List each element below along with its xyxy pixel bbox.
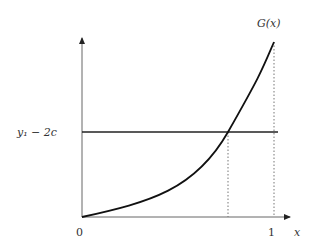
origin-label: 0 bbox=[76, 226, 83, 239]
level-label: y₁ − 2c bbox=[16, 126, 57, 139]
x-tick-one-label: 1 bbox=[268, 226, 275, 239]
curve-g bbox=[82, 42, 274, 217]
diagram-canvas: G(x) y₁ − 2c 0 1 x bbox=[0, 0, 319, 250]
curve-label: G(x) bbox=[257, 17, 281, 30]
x-axis-label: x bbox=[294, 226, 301, 239]
